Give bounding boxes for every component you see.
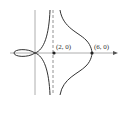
point-6-0	[90, 51, 93, 54]
label-point-2-0: (2, 0)	[56, 43, 72, 51]
point-2-0	[52, 51, 55, 54]
upper-branch-left	[35, 10, 50, 53]
x-axis-arrow-icon	[113, 51, 118, 55]
label-point-6-0: (6, 0)	[94, 43, 110, 51]
lower-branch-left	[35, 53, 50, 95]
curve-diagram: (2, 0) (6, 0)	[0, 0, 126, 123]
right-branch	[60, 10, 92, 95]
